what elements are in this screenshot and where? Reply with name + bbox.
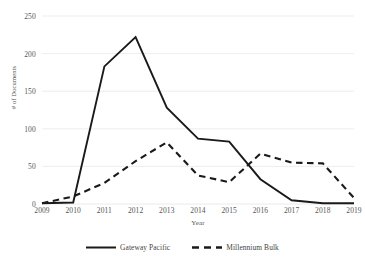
y-axis-tick-label: 50 [28,162,36,171]
plot-area [42,16,354,204]
x-axis-tick-label: 2016 [253,206,268,215]
x-axis-tick-label: 2010 [65,206,80,215]
y-axis-tick-labels: 050100150200250 [0,16,40,204]
y-axis-tick-label: 150 [24,87,36,96]
legend-label: Millennium Bulk [226,243,279,252]
y-axis-tick-label: 200 [24,49,36,58]
series-lines [42,16,354,204]
legend-label: Gateway Pacific [120,243,170,252]
x-axis-tick-label: 2011 [97,206,112,215]
x-axis-tick-label: 2012 [128,206,143,215]
x-axis-tick-label: 2019 [346,206,361,215]
series-line-gateway-pacific [42,37,354,203]
legend-line-swatch [86,244,116,251]
series-line-millennium-bulk [42,142,354,203]
x-axis-tick-label: 2017 [284,206,299,215]
legend-item-millennium-bulk[interactable]: Millennium Bulk [192,243,279,252]
x-axis-tick-label: 2009 [34,206,49,215]
line-chart: # of Documents 050100150200250 200920102… [0,0,365,270]
x-axis-tick-label: 2015 [221,206,236,215]
y-axis-tick-label: 250 [24,12,36,21]
y-axis-tick-label: 100 [24,124,36,133]
chart-legend: Gateway PacificMillennium Bulk [0,243,365,252]
x-axis-tick-label: 2018 [315,206,330,215]
x-axis-tick-label: 2013 [159,206,174,215]
x-axis-tick-label: 2014 [190,206,205,215]
legend-item-gateway-pacific[interactable]: Gateway Pacific [86,243,170,252]
x-axis-title: Year [42,219,354,227]
legend-line-swatch [192,244,222,251]
x-axis-tick-labels: 2009201020112012201320142015201620172018… [42,206,354,220]
